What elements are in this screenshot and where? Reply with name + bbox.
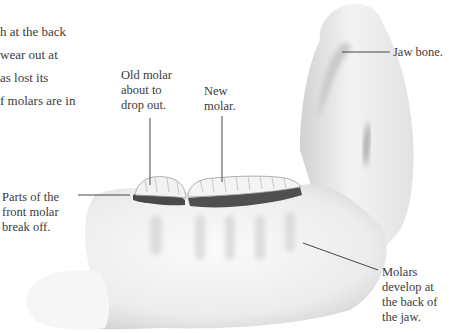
body-text-line: wear out at <box>0 45 75 64</box>
label-front-molar: Parts of the front molar break off. <box>2 190 59 235</box>
label-molars-develop: Molars develop at the back of the jaw. <box>382 265 438 325</box>
label-new-molar: New molar. <box>204 84 236 114</box>
body-text-line: h at the back <box>0 22 75 41</box>
label-old-molar: Old molar about to drop out. <box>121 68 172 113</box>
body-text-line: f molars are in <box>0 91 75 110</box>
label-jaw-bone: Jaw bone. <box>393 45 443 60</box>
body-text-line: as lost its <box>0 68 75 87</box>
body-text: h at the back wear out at as lost its f … <box>0 22 75 110</box>
old-molar <box>135 177 186 198</box>
